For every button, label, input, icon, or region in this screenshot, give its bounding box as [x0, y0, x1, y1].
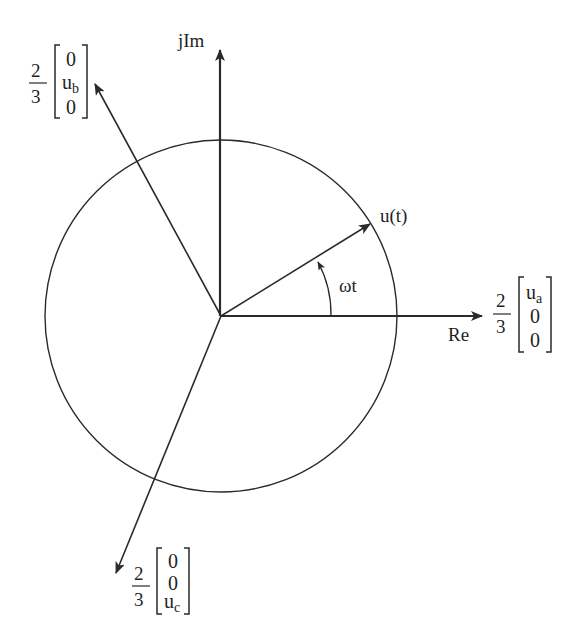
phase-b-coef-den: 3	[31, 86, 41, 107]
rotating-vector-label: u(t)	[380, 205, 407, 227]
phase-c-coef-num: 2	[134, 563, 144, 584]
phase-b-coef-num: 2	[31, 60, 41, 81]
phase-b-matrix: 2 3 0 ub 0	[29, 45, 87, 118]
phase-b-row2: ub	[62, 71, 79, 96]
phase-c-matrix: 2 3 0 0 uc	[132, 548, 189, 615]
phase-c-vector-arrow	[116, 316, 221, 573]
phase-b-right-bracket	[82, 45, 87, 118]
phase-b-row3: 0	[66, 96, 76, 118]
phase-b-row1: 0	[66, 48, 76, 70]
real-axis-label: Re	[448, 324, 469, 345]
phase-b-left-bracket	[55, 45, 60, 118]
imag-axis-label: jIm	[177, 30, 205, 51]
phase-a-right-bracket	[546, 277, 551, 352]
angle-arc	[318, 262, 331, 316]
phase-a-left-bracket	[519, 277, 524, 352]
phase-a-row3: 0	[530, 329, 540, 351]
phase-a-coef-num: 2	[496, 290, 506, 311]
phase-a-row1: ua	[526, 281, 543, 306]
angle-label: ωt	[339, 275, 358, 296]
phasor-diagram: jIm Re u(t) ωt 2 3 ua 0 0 2 3 0 ub 0 2 3…	[0, 0, 581, 639]
phase-b-vector-arrow	[95, 84, 221, 316]
rotating-vector-arrow	[221, 224, 370, 316]
phase-a-matrix: 2 3 ua 0 0	[493, 277, 551, 352]
phase-c-coef-den: 3	[134, 589, 144, 610]
phase-c-right-bracket	[184, 548, 189, 614]
phase-a-row2: 0	[530, 305, 540, 327]
phase-a-coef-den: 3	[496, 316, 506, 337]
phase-c-left-bracket	[157, 548, 162, 614]
phase-c-row1: 0	[168, 550, 178, 572]
